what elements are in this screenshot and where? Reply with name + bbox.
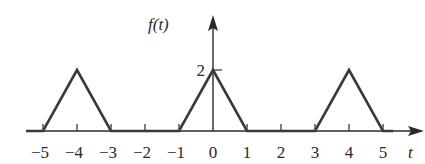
x-tick-label: 5 (379, 143, 388, 162)
axes (26, 15, 424, 136)
x-tick-label: −3 (99, 143, 117, 162)
x-axis-label: t (408, 143, 414, 162)
x-tick-label: −1 (167, 143, 185, 162)
x-tick-label: 2 (277, 143, 286, 162)
triangular-pulse-chart: −5−4−3−2−10123452 f(t) t (0, 0, 425, 164)
x-tick-label: 4 (345, 143, 354, 162)
x-tick-label: 0 (209, 143, 218, 162)
x-tick-label: 3 (311, 143, 320, 162)
y-axis-label: f(t) (148, 15, 169, 34)
x-tick-label: −2 (133, 143, 151, 162)
x-tick-label: −5 (31, 143, 49, 162)
x-tick-label: −4 (65, 143, 84, 162)
signal-line (26, 70, 393, 131)
y-tick-label: 2 (197, 61, 206, 80)
x-tick-label: 1 (243, 143, 252, 162)
